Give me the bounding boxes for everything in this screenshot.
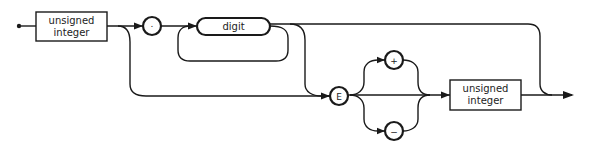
end-box-line2: integer	[468, 95, 505, 106]
edge-minus-merge	[403, 95, 430, 131]
exponent-terminal: E	[330, 87, 348, 105]
end-box-line1: unsigned	[463, 83, 509, 94]
edge-digit-to-exponent	[290, 24, 330, 96]
syntax-diagram-unsigned-real: unsigned integer . digit E +	[0, 0, 590, 151]
digit-label: digit	[222, 21, 244, 32]
minus-terminal: −	[385, 122, 403, 140]
arrow-icon	[321, 93, 330, 100]
exponent-symbol: E	[336, 92, 342, 102]
decimal-point-terminal: .	[143, 17, 161, 35]
arrow-icon	[377, 128, 385, 134]
plus-symbol: +	[390, 56, 398, 66]
start-box-line2: integer	[54, 27, 91, 38]
end-arrow-icon	[563, 91, 574, 99]
start-unsigned-integer-box: unsigned integer	[36, 12, 107, 41]
edge-plus-merge	[403, 60, 430, 95]
plus-terminal: +	[385, 51, 403, 69]
decimal-point-symbol: .	[151, 19, 154, 29]
digit-nonterminal: digit	[197, 18, 270, 35]
edge-to-minus	[350, 95, 385, 131]
start-box-line1: unsigned	[49, 15, 95, 26]
minus-symbol: −	[390, 127, 398, 137]
arrow-icon	[441, 92, 450, 99]
arrow-icon	[377, 57, 385, 63]
end-unsigned-integer-box: unsigned integer	[450, 80, 521, 110]
arrow-icon	[134, 23, 143, 30]
edge-to-plus	[350, 60, 385, 95]
start-dot	[17, 24, 21, 28]
